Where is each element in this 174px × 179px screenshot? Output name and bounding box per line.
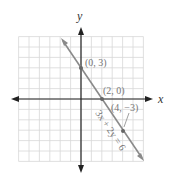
point-label-0-3: (0, 3) xyxy=(85,57,107,69)
point-4-neg3 xyxy=(121,129,125,133)
line-arrow-bottom-icon xyxy=(137,153,144,161)
coordinate-plane: y x (0, 3) (2, 0) (4, −3) 3x + 2y = 6 xyxy=(0,0,174,179)
point-label-2-0: (2, 0) xyxy=(103,85,125,97)
y-axis-up-arrow-icon xyxy=(78,27,84,35)
point-0-3 xyxy=(79,66,83,70)
y-axis-label: y xyxy=(76,9,83,23)
line-arrow-top-icon xyxy=(61,38,68,46)
point-2-0 xyxy=(100,97,104,101)
x-axis-right-arrow-icon xyxy=(145,96,153,102)
y-axis-down-arrow-icon xyxy=(78,165,84,173)
x-axis-label: x xyxy=(157,92,164,106)
x-axis-left-arrow-icon xyxy=(11,96,19,102)
point-label-4-neg3: (4, −3) xyxy=(111,102,138,114)
